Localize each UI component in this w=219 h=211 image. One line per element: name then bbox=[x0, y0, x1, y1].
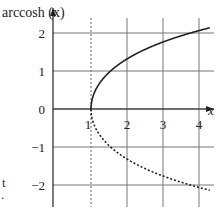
x-tick-label: 4 bbox=[196, 117, 203, 132]
y-tick-label: 2 bbox=[39, 26, 46, 41]
y-axis-label: arccosh (x) bbox=[2, 6, 65, 20]
arccosh-curve bbox=[91, 28, 210, 109]
x-tick-label: 3 bbox=[160, 117, 167, 132]
x-axis-label: x bbox=[208, 104, 214, 117]
negative-branch-curve bbox=[91, 109, 210, 190]
arccosh-chart: −2−10121234 bbox=[0, 0, 219, 211]
y-tick-label: −2 bbox=[31, 178, 45, 193]
y-tick-label: 0 bbox=[39, 102, 46, 117]
x-tick-label: 1 bbox=[85, 117, 92, 132]
y-tick-label: −1 bbox=[31, 140, 45, 155]
clipped-text-fragment-dot: . bbox=[1, 188, 4, 201]
y-tick-label: 1 bbox=[39, 64, 46, 79]
x-tick-label: 2 bbox=[124, 117, 131, 132]
